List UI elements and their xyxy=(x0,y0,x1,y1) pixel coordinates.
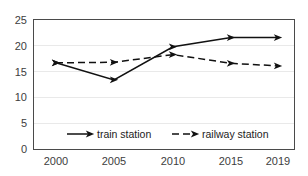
x-axis-tick-label: 2010 xyxy=(161,155,185,167)
x-axis-tick-label: 2015 xyxy=(219,155,243,167)
y-axis-tick-label: 10 xyxy=(15,91,27,103)
legend-label: railway station xyxy=(202,128,269,140)
y-axis-tick-label: 20 xyxy=(15,40,27,52)
y-axis-tick-label: 0 xyxy=(21,143,27,155)
y-axis-tick-label: 25 xyxy=(15,14,27,26)
legend-label: train station xyxy=(97,128,151,140)
x-axis-tick-label: 2019 xyxy=(266,155,290,167)
x-axis-tick-label: 2005 xyxy=(102,155,126,167)
x-axis-tick-label: 2000 xyxy=(44,155,68,167)
line-chart: 0510152025 20002005201020152019 train st… xyxy=(0,0,308,176)
chart-canvas: 0510152025 20002005201020152019 train st… xyxy=(0,0,308,176)
y-axis-tick-label: 15 xyxy=(15,66,27,78)
y-axis-tick-label: 5 xyxy=(21,117,27,129)
